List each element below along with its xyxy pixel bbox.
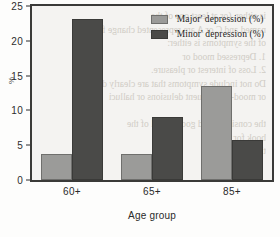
bar-major-65plus	[121, 154, 152, 180]
x-axis-label: Age group	[30, 210, 274, 221]
x-axis-ticks: 60+65+85+	[30, 186, 274, 202]
y-tick-label: 25	[11, 1, 23, 12]
x-tick-label: 60+	[63, 186, 81, 197]
y-tick-label: 15	[11, 70, 23, 81]
x-tick-label: 65+	[143, 186, 161, 197]
y-tick-label: 5	[17, 140, 23, 151]
bar-major-60plus	[41, 154, 72, 180]
legend-swatch-major-icon	[151, 15, 168, 24]
depression-prevalence-bar-chart: % 0510152025 is either. (or at least one…	[0, 0, 280, 237]
bar-minor-85plus	[232, 140, 263, 180]
x-tick-label: 85+	[223, 186, 241, 197]
legend-label: 'Minor' depression (%)	[175, 29, 264, 39]
bar-minor-60plus	[72, 19, 103, 180]
y-tick-label: 10	[11, 105, 23, 116]
chart-legend: 'Major' depression (%)'Minor' depression…	[151, 14, 264, 39]
bar-group	[41, 6, 103, 180]
bar-major-85plus	[201, 86, 232, 180]
y-tick-label: 0	[17, 175, 23, 186]
y-tick-label: 20	[11, 35, 23, 46]
y-axis-ticks: 0510152025	[0, 0, 30, 185]
plot-area: is either. (or at least one of the named…	[30, 4, 274, 182]
legend-swatch-minor-icon	[151, 30, 168, 39]
bar-minor-65plus	[152, 117, 183, 180]
legend-item: 'Minor' depression (%)	[151, 29, 264, 39]
legend-item: 'Major' depression (%)	[151, 14, 264, 24]
legend-label: 'Major' depression (%)	[175, 14, 263, 24]
